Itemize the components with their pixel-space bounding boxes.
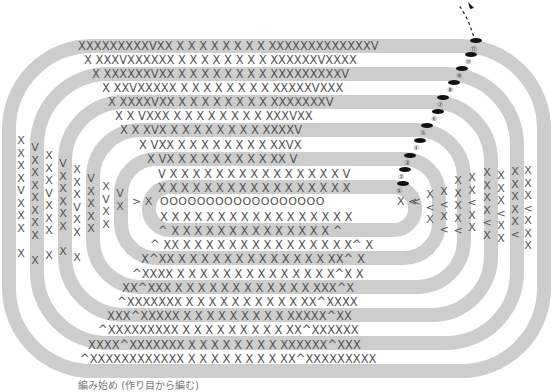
row-2-top: V X X X X X X X X X X X X X X X V <box>158 167 350 181</box>
row-number-7: ⑦ <box>437 101 443 109</box>
row-1-bottom: X X X X X X X X X X X X X X X X X <box>160 210 352 224</box>
join-marker-7 <box>437 95 449 100</box>
row-number-3: ③ <box>404 159 410 167</box>
row-8-top: X XXVXXXXX X X X X X X X X XXXXXVXXX <box>102 81 343 95</box>
join-marker-11 <box>470 38 482 43</box>
row-number-2: ② <box>398 173 404 181</box>
right-col-row-7: X X X X < X <box>481 167 493 242</box>
right-col-row-10: X X X < X X X <box>522 165 534 253</box>
right-col-row-9: X X X X X < <box>509 166 521 241</box>
row-3-top: X VX X X X X X X X X XX V <box>147 152 297 166</box>
row-4-top: X VXX X X X X X X X X XXVX <box>139 138 302 152</box>
right-col-row-2: < <box>410 196 422 209</box>
caption: 編み始め (作り目から編む) <box>78 377 199 392</box>
row-5-bottom: ^XXXX X X X X X X X X X X X X X X^X X <box>132 267 364 281</box>
left-col-row-5: X V X X <box>100 181 112 231</box>
row-6-bottom: XX^XXX X X X X X X X X X X X X XXX^X <box>122 281 354 295</box>
right-col-row-6: X X < X X <box>466 172 478 235</box>
left-col-row-8: V X X X X X X <box>57 158 69 258</box>
join-marker-3 <box>404 153 416 158</box>
right-col-row-3: X < X <box>424 189 436 227</box>
join-marker-2 <box>399 167 411 172</box>
row-number-6: ⑥ <box>431 115 437 123</box>
row-number-9: ⑨ <box>456 72 462 80</box>
row-5-top: X X XVX X X X X X X X X XXXXV <box>120 123 302 137</box>
row-10-bottom: XXXX^XXXXXXX X X X X X X X X XXXXXX^XXX <box>88 338 361 352</box>
left-col-row-10: V X X X X X X X X <box>29 142 41 267</box>
left-col-row-11: X X X X V X X X X <box>15 135 27 260</box>
join-marker-8 <box>448 80 460 85</box>
row-9-top: X XXXXXXVXX X X X X X X X X XXXXXXXXXV <box>92 67 349 81</box>
row-number-4: ④ <box>413 144 419 152</box>
row-number-5: ⑤ <box>420 129 426 137</box>
join-marker-4 <box>414 138 426 143</box>
right-col-row-4: X < X < <box>438 186 450 236</box>
left-col-row-9: X X X V X X X X <box>43 150 55 263</box>
row-4-bottom: X^XX X X X X X X X X X X X X X XX^ X <box>141 252 365 266</box>
row-2-bottom: ^ X X X X X X X X X X X X X X ^ <box>158 224 342 238</box>
chain-start: > X <box>132 195 152 208</box>
join-marker-10 <box>465 52 477 57</box>
foundation-chain: OOOOOOOOOOOOOOOOOO <box>160 195 325 208</box>
left-col-row-6: V X X X X <box>85 173 97 236</box>
row-7-bottom: ^XXXXXXX X X X X X X X X X X XX^XXXX <box>117 295 358 309</box>
row-11-top: XXXXXXXXXVXX X X X X X X X X XXXXXXXXXXX… <box>78 39 379 53</box>
right-col-row-8: X X X < X X <box>495 170 507 245</box>
left-col-row-7: X X X V X X X <box>71 164 83 264</box>
row-number-8: ⑧ <box>447 86 453 94</box>
row-6-top: X X VXXX X X X X X X X X XXXVXX <box>115 109 313 123</box>
join-marker-1 <box>397 181 409 186</box>
row-7-top: X XXXXVXX X X X X X X X X XXXXXXXV <box>108 95 334 109</box>
row-3-bottom: ^ XX X X X X X X X X X X X X X X X^ X <box>150 238 373 252</box>
right-col-row-5: X X X X < <box>452 175 464 238</box>
row-11-bottom: ^XXXXXXXXXXXX X X X X X X X X XX^XXXXXXX… <box>80 352 376 366</box>
join-marker-5 <box>421 123 433 128</box>
row-number-1: ① <box>396 187 402 195</box>
row-1-top: X X X X X X X X X X X X X X X X X <box>158 181 350 195</box>
join-marker-9 <box>456 66 468 71</box>
left-col-row-4: V X <box>114 188 126 213</box>
join-marker-6 <box>432 109 444 114</box>
row-number-10: ⑩ <box>465 58 471 66</box>
row-9-bottom: ^XXXXXXXXX X X X X X X X X X XX^XXXXXX <box>98 323 359 337</box>
row-8-bottom: XXX^XXXXX X X X X X X X X X XXXXX^XX <box>107 309 352 323</box>
row-10-top: X XXXVXXXXXX X X X X X X X X XXXXXXVXXXX <box>84 53 357 67</box>
